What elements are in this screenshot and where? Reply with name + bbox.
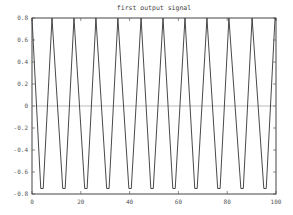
y-tick-label: 0.8 (17, 14, 28, 21)
x-tick-label: 80 (224, 198, 232, 205)
signal-line (32, 18, 276, 189)
x-tick-label: 20 (77, 198, 85, 205)
x-tick-label: 100 (271, 198, 282, 205)
y-tick-label: 0.4 (17, 58, 28, 65)
x-tick-label: 60 (175, 198, 183, 205)
y-tick-label: -0.2 (14, 124, 29, 131)
y-tick-label: 0.2 (17, 80, 28, 87)
x-tick-label: 0 (30, 198, 34, 205)
chart: first output signal 0.80.60.40.20-0.2-0.… (0, 0, 293, 215)
x-tick-label: 40 (126, 198, 134, 205)
y-tick-label: -0.6 (14, 168, 29, 175)
y-tick-label: -0.4 (14, 146, 29, 153)
y-tick-label: -0.8 (14, 190, 29, 197)
y-axis: 0.80.60.40.20-0.2-0.4-0.6-0.8 (14, 14, 276, 197)
chart-title: first output signal (117, 4, 191, 12)
y-tick-label: 0 (24, 102, 28, 109)
y-tick-label: 0.6 (17, 36, 28, 43)
